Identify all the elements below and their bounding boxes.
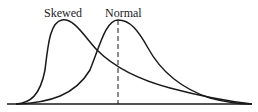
skewed-curve [16, 20, 252, 104]
skewed-label: Skewed [44, 7, 82, 19]
normal-label: Normal [105, 7, 142, 19]
